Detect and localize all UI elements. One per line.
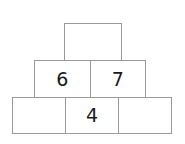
pyramid-cell-middle-1[interactable]: 6 (34, 60, 91, 98)
pyramid-cell-middle-2[interactable]: 7 (90, 60, 147, 98)
pyramid-cell-top-1[interactable] (64, 23, 122, 61)
number-pyramid-diagram: 6 7 4 (0, 0, 185, 144)
pyramid-cell-bottom-3[interactable] (118, 97, 172, 134)
pyramid-row-middle: 6 7 (34, 60, 146, 98)
pyramid-cell-bottom-1[interactable] (12, 97, 66, 134)
pyramid-row-bottom: 4 (12, 97, 174, 134)
pyramid-cell-bottom-2[interactable]: 4 (65, 97, 119, 134)
pyramid-row-top (64, 23, 122, 61)
